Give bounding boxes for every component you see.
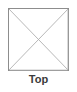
view-thumbnail: Top [0,0,77,92]
square-face-drawing [8,8,69,71]
square-face [8,8,69,71]
view-caption: Top [0,73,77,86]
